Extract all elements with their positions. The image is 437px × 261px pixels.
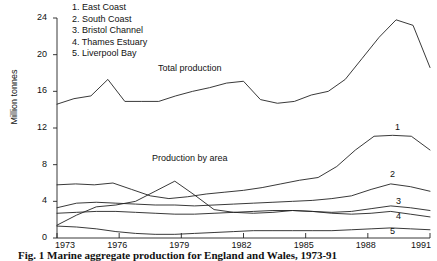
y-tick-label: 4 [21, 195, 47, 205]
legend-item-east-coast: 1. East Coast [72, 2, 147, 14]
series-legend: 1. East Coast 2. South Coast 3. Bristol … [72, 2, 147, 60]
series-line-south-coast [57, 184, 430, 208]
series-number-1: 1 [395, 122, 400, 132]
y-tick-label: 16 [21, 85, 47, 95]
legend-item-thames-estuary: 4. Thames Estuary [72, 37, 147, 49]
series-number-2: 2 [390, 169, 395, 179]
y-tick-label: 24 [21, 12, 47, 22]
y-tick-label: 20 [21, 49, 47, 59]
series-line-east-coast [57, 135, 430, 198]
series-number-4: 4 [396, 211, 401, 221]
y-tick-label: 12 [21, 122, 47, 132]
legend-item-liverpool-bay: 5. Liverpool Bay [72, 48, 147, 60]
figure-caption: Fig. 1 Marine aggregate production for E… [18, 249, 437, 261]
legend-item-south-coast: 2. South Coast [72, 14, 147, 26]
legend-item-bristol-channel: 3. Bristol Channel [72, 25, 147, 37]
y-axis-title: Million tonnes [9, 62, 19, 132]
series-number-3: 3 [396, 196, 401, 206]
series-number-5: 5 [390, 226, 395, 236]
y-tick-label: 8 [21, 159, 47, 169]
annotation-total-production: Total production [158, 63, 222, 73]
annotation-production-by-area: Production by area [152, 153, 228, 163]
y-tick-label: 0 [21, 232, 47, 242]
